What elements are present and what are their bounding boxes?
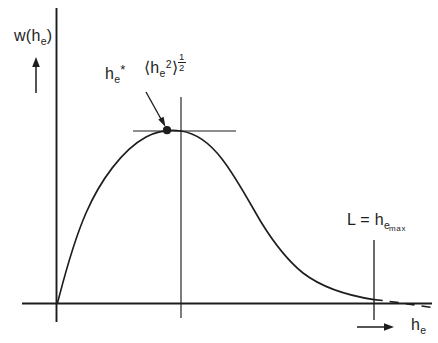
plot-svg: [0, 0, 438, 343]
cutoff-label-subsubscript: max: [389, 224, 406, 233]
x-axis-label-subscript: e: [420, 324, 426, 336]
x-axis-label: he: [411, 317, 426, 333]
y-axis-label: w(he): [14, 28, 52, 44]
cutoff-label-lhs: L = h: [347, 211, 384, 228]
distribution-curve-solid: [58, 130, 375, 303]
y-axis-label-close: ): [47, 27, 53, 44]
y-axis-direction-arrow-icon: [32, 57, 40, 93]
rms-label: ⟨he2⟩12: [144, 60, 186, 80]
x-axis-label-base: h: [411, 316, 420, 333]
mode-point-marker: [163, 126, 171, 134]
rms-superscript: 2: [166, 58, 172, 70]
figure-canvas: w(he) he* ⟨he2⟩12 L = hemax he: [0, 0, 438, 343]
cutoff-label: L = hemax: [347, 212, 407, 228]
mode-label-base: h: [105, 65, 114, 82]
y-axis-label-subscript: e: [41, 35, 47, 47]
rms-exponent-half: 12: [178, 52, 186, 72]
rms-exponent-numerator: 1: [178, 52, 186, 62]
mode-label-star: *: [120, 62, 125, 77]
rms-exponent-denominator: 2: [178, 62, 186, 73]
rms-subscript: e: [160, 67, 166, 79]
y-axis-label-func: w(h: [14, 27, 41, 44]
mode-label: he*: [105, 66, 126, 82]
mode-pointer-arrow-icon: [146, 92, 166, 127]
x-axis-direction-arrow-icon: [357, 323, 394, 331]
rms-base: h: [150, 59, 159, 76]
